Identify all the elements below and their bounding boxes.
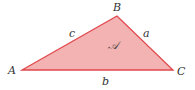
vertex-label-a: A <box>7 64 16 77</box>
triangle-shape <box>22 16 173 70</box>
side-label-c: c <box>69 27 75 40</box>
vertex-label-c: C <box>177 65 186 78</box>
side-label-a: a <box>143 27 150 40</box>
triangle-diagram: A B C c a b 𝒜 <box>0 0 195 90</box>
vertex-label-b: B <box>112 1 121 14</box>
side-label-b: b <box>102 75 109 88</box>
